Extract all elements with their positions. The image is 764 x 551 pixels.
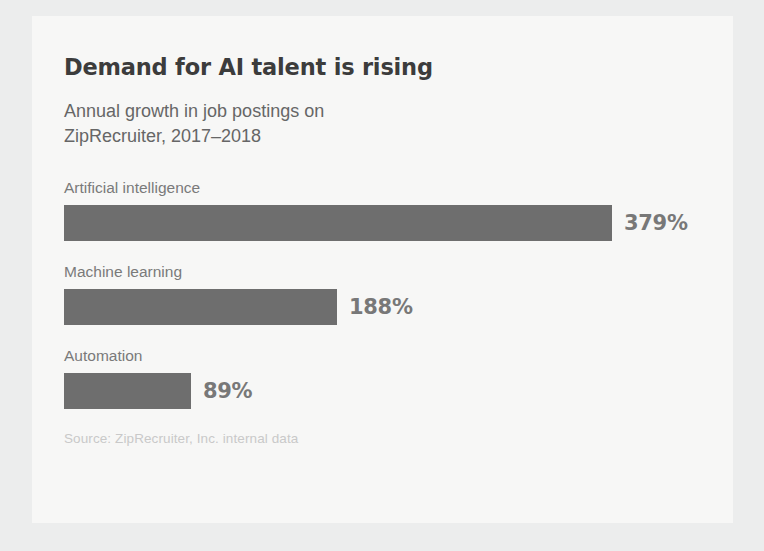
bar-category-label: Machine learning (64, 263, 703, 280)
bar-group: Machine learning 188% (64, 263, 703, 325)
bar-row: 188% (64, 289, 703, 325)
bar-chart-plot: Artificial intelligence 379% Machine lea… (64, 179, 703, 409)
bar-value-label: 89% (203, 379, 252, 403)
bar-fill (64, 289, 337, 325)
bar-row: 89% (64, 373, 703, 409)
chart-title: Demand for AI talent is rising (64, 54, 703, 81)
chart-page: Demand for AI talent is rising Annual gr… (0, 0, 764, 551)
bar-category-label: Artificial intelligence (64, 179, 703, 196)
source-note: Source: ZipRecruiter, Inc. internal data (64, 431, 703, 446)
chart-subtitle: Annual growth in job postings on ZipRecr… (64, 99, 394, 149)
bar-category-label: Automation (64, 347, 703, 364)
bar-row: 379% (64, 205, 703, 241)
bar-value-label: 379% (624, 211, 688, 235)
bar-group: Artificial intelligence 379% (64, 179, 703, 241)
chart-card: Demand for AI talent is rising Annual gr… (32, 16, 733, 523)
bar-fill (64, 373, 191, 409)
bar-value-label: 188% (349, 295, 413, 319)
bar-fill (64, 205, 612, 241)
bar-group: Automation 89% (64, 347, 703, 409)
